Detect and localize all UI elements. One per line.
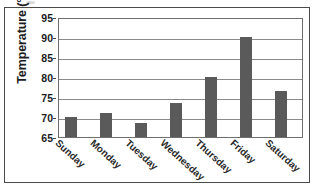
y-tick-mark	[53, 78, 56, 79]
y-tick-label: 95	[41, 13, 53, 24]
y-tick-mark	[53, 18, 56, 19]
y-tick-label: 65	[41, 133, 53, 144]
bar	[65, 117, 77, 137]
x-tick-label: Monday	[88, 138, 123, 171]
bar	[100, 113, 112, 137]
x-tick-label: Friday	[228, 138, 257, 166]
bar	[240, 37, 252, 137]
x-tick-label: Tuesday	[123, 138, 159, 172]
y-tick-label: 85	[41, 53, 53, 64]
y-tick-label: 75	[41, 93, 53, 104]
y-tick-mark	[53, 58, 56, 59]
y-tick-mark	[53, 98, 56, 99]
y-tick-mark	[53, 38, 56, 39]
x-axis-tick-labels: SundayMondayTuesdayWednesdayThursdayFrid…	[58, 138, 303, 188]
y-axis-tick-labels: 65707580859095	[0, 18, 56, 138]
y-tick-label: 70	[41, 113, 53, 124]
bar-series	[59, 19, 302, 137]
y-tick-mark	[53, 138, 56, 139]
bar-chart-figure: Temperature (°F) 65707580859095 SundayMo…	[0, 0, 315, 191]
y-tick-label: 80	[41, 73, 53, 84]
x-tick-label: Sunday	[53, 138, 87, 170]
bar	[275, 91, 287, 137]
y-tick-mark	[53, 118, 56, 119]
y-tick-label: 90	[41, 33, 53, 44]
bar	[205, 77, 217, 137]
x-tick-label: Saturday	[263, 138, 301, 174]
plot-area	[58, 18, 303, 138]
bar	[135, 123, 147, 137]
bar	[170, 103, 182, 137]
